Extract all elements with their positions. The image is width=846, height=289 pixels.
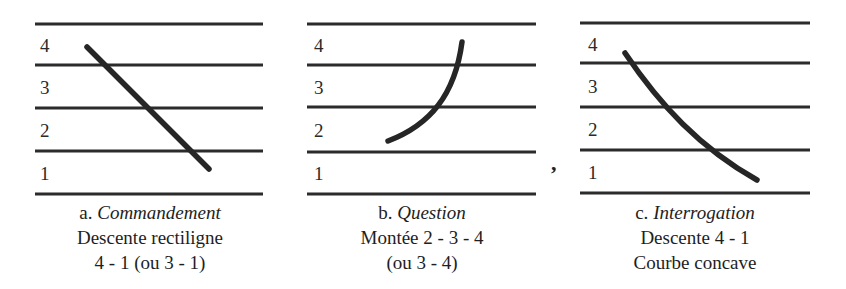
caption-c: c. Interrogation Descente 4 - 1 Courbe c… bbox=[565, 200, 825, 275]
caption-letter: c. bbox=[635, 202, 648, 223]
caption-heading: c. Interrogation bbox=[565, 200, 825, 225]
contour-curve-concave bbox=[625, 53, 757, 180]
panel-interrogation: 4 3 2 1 c. Interrogation Descente 4 - 1 … bbox=[0, 0, 846, 289]
caption-title: Interrogation bbox=[653, 202, 755, 223]
staff-lines bbox=[580, 23, 810, 193]
level-label-3: 3 bbox=[588, 77, 598, 96]
level-label-4: 4 bbox=[588, 35, 598, 54]
level-label-1: 1 bbox=[588, 163, 598, 182]
level-label-2: 2 bbox=[588, 120, 598, 139]
caption-line-2: Courbe concave bbox=[565, 250, 825, 275]
staff-diagram-c bbox=[0, 0, 846, 200]
caption-line-1: Descente 4 - 1 bbox=[565, 225, 825, 250]
